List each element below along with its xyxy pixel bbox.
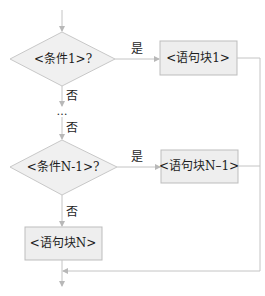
condition-n-1-label: <条件N-1>? bbox=[27, 160, 100, 174]
no-label-3: 否 bbox=[66, 205, 78, 219]
yes-label-1: 是 bbox=[131, 42, 143, 56]
statement-block-n-label: <语句块N> bbox=[30, 236, 97, 250]
no-label-2: 否 bbox=[66, 121, 78, 135]
condition-1-label: <条件1>? bbox=[34, 52, 92, 66]
ellipsis-label: … bbox=[57, 105, 68, 119]
yes-label-2: 是 bbox=[131, 150, 143, 164]
statement-block-1-label: <语句块1> bbox=[166, 51, 230, 65]
no-label-1: 否 bbox=[66, 89, 78, 103]
statement-block-n-1-label: <语句块N–1> bbox=[159, 159, 239, 173]
block-1-exit-line bbox=[237, 58, 260, 271]
